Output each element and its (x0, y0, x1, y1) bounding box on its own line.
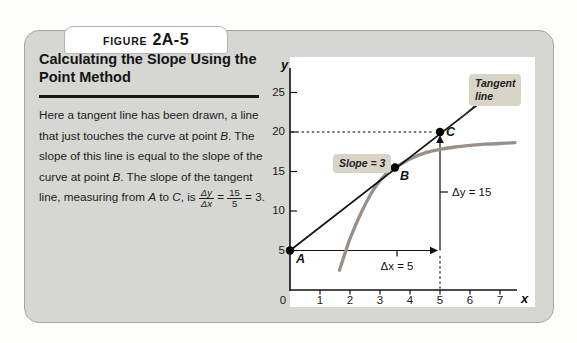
figure-tab: FIGURE 2A-5 (64, 26, 228, 54)
point-label-a: A (296, 253, 305, 266)
figure-title: Calculating the Slope Using the Point Me… (39, 50, 281, 86)
y-axis-title: y (281, 57, 288, 72)
figure-tab-number: 2A-5 (152, 31, 189, 49)
point-label-c: C (446, 126, 455, 139)
y-tick-label: 5 (255, 244, 285, 256)
tangent-line-annotation: Tangent line (469, 74, 521, 106)
y-tick-label: 20 (255, 125, 285, 137)
x-tick-label: 0 (280, 294, 286, 306)
point-a (286, 246, 294, 254)
y-tick-label: 25 (255, 86, 285, 98)
y-tick-label: 15 (255, 165, 285, 177)
y-tick-label: 10 (255, 204, 285, 216)
inline-fraction: 155 (227, 188, 242, 209)
figure-title-line2: Point Method (39, 68, 281, 86)
title-divider (39, 95, 259, 98)
x-tick-label: 3 (377, 294, 383, 306)
x-tick-label: 7 (497, 294, 503, 306)
x-tick-label: 4 (407, 294, 413, 306)
slope-chart: y x Slope = 3 Tangent line A B C Δx = 5 … (255, 50, 545, 315)
point-c (436, 128, 444, 136)
figure-caption: Here a tangent line has been drawn, a li… (39, 105, 275, 209)
x-tick-label: 1 (317, 294, 323, 306)
x-tick-label: 6 (467, 294, 473, 306)
figure-tab-prefix: FIGURE (103, 35, 147, 47)
x-axis-title: x (521, 291, 528, 306)
dx-measure-label: Δx = 5 (381, 260, 414, 273)
dy-measure-label: Δy = 15 (452, 186, 491, 199)
point-label-b: B (400, 170, 409, 183)
x-tick-label: 5 (437, 294, 443, 306)
x-tick-label: 2 (347, 294, 353, 306)
inline-fraction: ΔyΔx (199, 188, 214, 209)
slope-annotation: Slope = 3 (333, 154, 391, 173)
point-b (391, 163, 399, 171)
